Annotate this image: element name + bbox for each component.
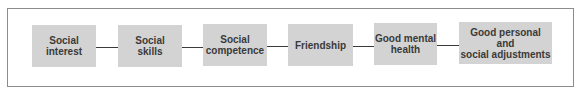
connector-1-2: [96, 47, 118, 48]
connector-3-4: [267, 46, 288, 47]
connector-2-3: [182, 47, 203, 48]
connector-5-6: [437, 45, 459, 46]
node-good-personal-social-adjustments: Good personal and social adjustments: [459, 22, 552, 64]
node-social-skills: Social skills: [118, 25, 182, 67]
node-social-interest: Social interest: [32, 25, 96, 67]
connector-4-5: [353, 46, 374, 47]
node-friendship: Friendship: [288, 24, 353, 66]
node-good-mental-health: Good mental health: [374, 23, 437, 65]
node-social-competence: Social competence: [203, 24, 267, 66]
